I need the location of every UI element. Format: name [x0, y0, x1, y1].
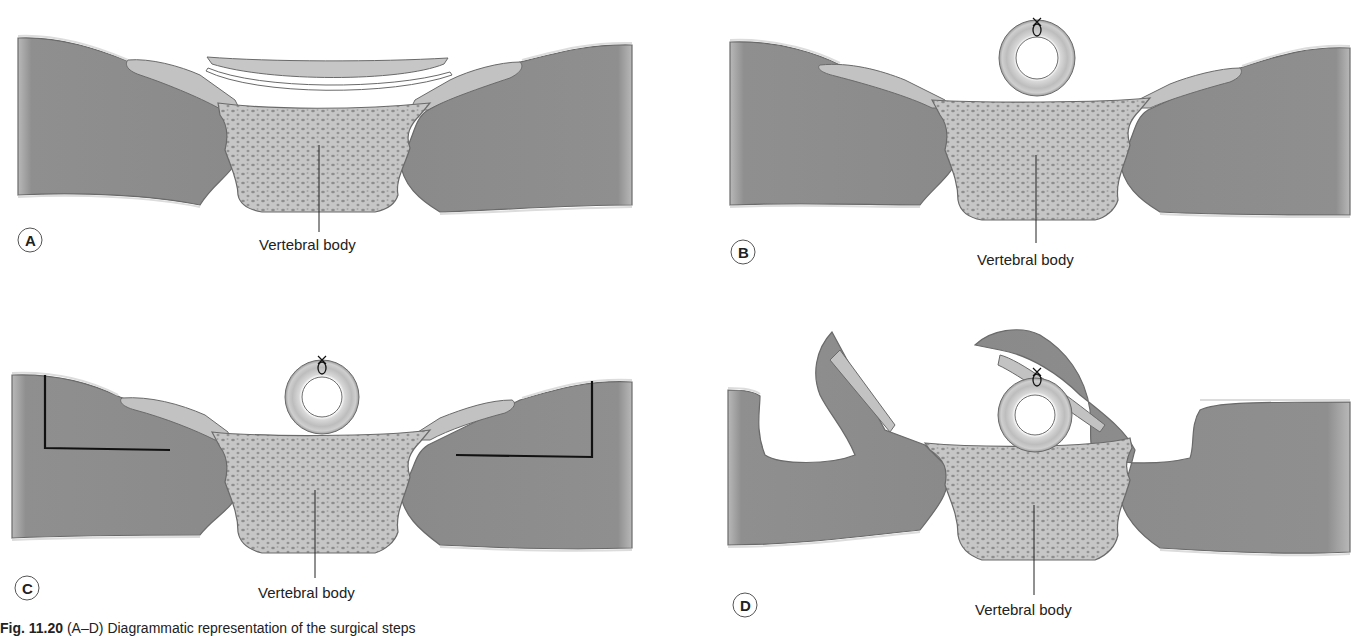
vertebral-body-label: Vertebral body [975, 601, 1072, 618]
panel-b-illustration: Vertebral body B [720, 0, 1358, 290]
panel-c: Vertebral body C [0, 320, 650, 620]
figure-number: Fig. 11.20 [0, 620, 63, 636]
panel-a-illustration: Vertebral body A [0, 0, 650, 270]
panel-letter: A [25, 232, 36, 249]
vertebral-body [212, 430, 430, 553]
vertebral-body [932, 98, 1150, 220]
panel-d-illustration: Vertebral body D [720, 320, 1358, 620]
vertebral-body-label: Vertebral body [259, 236, 356, 253]
panel-letter: B [738, 244, 749, 261]
panel-b: Vertebral body B [720, 0, 1358, 290]
vertebral-body-label: Vertebral body [258, 584, 355, 601]
vertebral-body [925, 438, 1132, 560]
panel-a: Vertebral body A [0, 0, 650, 270]
ligament-strip [207, 57, 448, 78]
figure-caption-text: (A–D) Diagrammatic representation of the… [67, 620, 416, 636]
right-paraspinal-muscle [400, 382, 632, 549]
panel-letter: C [22, 580, 33, 597]
vertebral-body [218, 103, 430, 212]
figure-caption: Fig. 11.20 (A–D) Diagrammatic representa… [0, 620, 416, 636]
panel-d: Vertebral body D [720, 320, 1358, 620]
vertebral-body-label: Vertebral body [977, 251, 1074, 268]
panel-letter: D [740, 597, 751, 614]
panel-c-illustration: Vertebral body C [0, 320, 650, 620]
